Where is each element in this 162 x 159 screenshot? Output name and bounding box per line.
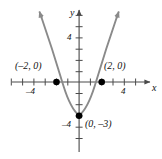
x-tick-label-4: 4: [121, 87, 126, 96]
parabola-right-arrow: [117, 12, 119, 19]
y-tick-label-4: 4: [67, 33, 72, 42]
coordinate-plane-svg: [0, 0, 162, 159]
point-marker-vertex: [76, 113, 83, 120]
point-label-right: (2, 0): [104, 61, 126, 71]
y-axis: [76, 10, 83, 152]
parabola-left-arrow: [39, 12, 41, 19]
point-label-vertex: (0, –3): [85, 119, 112, 129]
x-axis-label: x: [152, 83, 156, 93]
x-axis: [11, 79, 150, 86]
y-axis-label: y: [70, 8, 74, 18]
graph-figure: y x –4 4 4 –4 (–2, 0) (2, 0) (0, –3): [0, 0, 162, 159]
y-tick-label-neg4: –4: [62, 120, 71, 129]
x-tick-label-neg4: –4: [26, 87, 35, 96]
point-label-left: (–2, 0): [15, 61, 42, 71]
point-marker-left: [53, 79, 60, 86]
point-marker-right: [98, 79, 105, 86]
